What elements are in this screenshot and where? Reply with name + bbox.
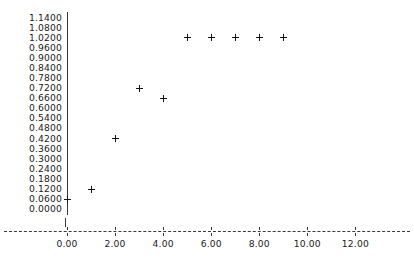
- marker-vertical-stroke: [187, 34, 188, 41]
- marker-vertical-stroke: [259, 34, 260, 41]
- marker-vertical-stroke: [235, 34, 236, 41]
- data-point-marker: [280, 34, 287, 41]
- marker-vertical-stroke: [115, 135, 116, 142]
- marker-vertical-stroke: [283, 34, 284, 41]
- data-point-marker: [232, 34, 239, 41]
- marker-vertical-stroke: [211, 34, 212, 41]
- marker-vertical-stroke: [91, 186, 92, 193]
- data-point-marker: [112, 135, 119, 142]
- marker-vertical-stroke: [139, 85, 140, 92]
- data-point-marker: [64, 196, 71, 203]
- data-point-group: [0, 0, 414, 269]
- marker-vertical-stroke: [67, 196, 68, 203]
- data-point-marker: [184, 34, 191, 41]
- marker-vertical-stroke: [163, 95, 164, 102]
- data-point-marker: [208, 34, 215, 41]
- data-point-marker: [256, 34, 263, 41]
- data-point-marker: [88, 186, 95, 193]
- scatter-plot-figure: 1.14001.08001.02000.96000.90000.84000.78…: [0, 0, 414, 269]
- data-point-marker: [136, 85, 143, 92]
- data-point-marker: [160, 95, 167, 102]
